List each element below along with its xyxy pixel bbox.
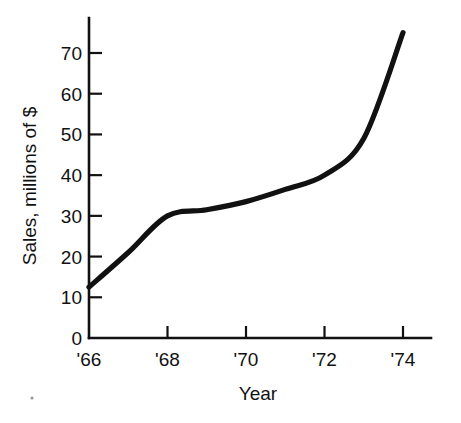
y-tick-label-50: 50 <box>61 124 82 145</box>
x-tick-label-68: '68 <box>155 349 180 370</box>
chart-canvas: 706050403020100 '66'68'70'72'74 Sales, m… <box>0 0 461 423</box>
y-axis-title: Sales, millions of $ <box>19 106 40 265</box>
sales-line-series <box>89 33 403 287</box>
scan-artifact-speck <box>30 396 33 399</box>
x-axis-title: Year <box>239 383 278 404</box>
x-axis-ticks <box>168 326 404 338</box>
y-axis-ticks <box>89 53 102 297</box>
x-tick-label-70: '70 <box>234 349 259 370</box>
x-axis-tick-labels: '66'68'70'72'74 <box>77 349 416 370</box>
y-tick-label-70: 70 <box>61 43 82 64</box>
y-tick-label-20: 20 <box>61 247 82 268</box>
y-tick-label-40: 40 <box>61 165 82 186</box>
x-tick-label-74: '74 <box>391 349 416 370</box>
x-tick-label-66: '66 <box>77 349 102 370</box>
y-tick-label-10: 10 <box>61 287 82 308</box>
y-tick-label-0: 0 <box>71 328 82 349</box>
line-chart: 706050403020100 '66'68'70'72'74 Sales, m… <box>0 0 461 423</box>
y-tick-label-30: 30 <box>61 206 82 227</box>
y-axis-tick-labels: 706050403020100 <box>61 43 82 349</box>
x-tick-label-72: '72 <box>312 349 337 370</box>
y-tick-label-60: 60 <box>61 84 82 105</box>
